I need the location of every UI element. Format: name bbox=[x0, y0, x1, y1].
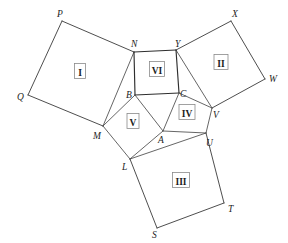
vertex-label-W: W bbox=[269, 74, 278, 84]
edge-M-L bbox=[103, 126, 130, 159]
region-label-v: V bbox=[127, 114, 139, 129]
region-label-iv: IV bbox=[179, 105, 195, 120]
edge-A-C bbox=[163, 93, 179, 131]
edge-U-A bbox=[163, 131, 206, 133]
edge-N-Y bbox=[134, 50, 176, 52]
edge-L-S bbox=[130, 159, 157, 228]
edge-P-N bbox=[62, 21, 134, 52]
region-label-text: I bbox=[78, 68, 82, 78]
edge-X-W bbox=[231, 21, 265, 79]
edge-P-Q bbox=[28, 21, 62, 95]
region-label-ii: II bbox=[214, 55, 228, 70]
geometry-figure: IIIIIIIVVVI PQMNXWVYSTULABC bbox=[0, 0, 288, 243]
region-label-layer: IIIIIIIVVVI bbox=[75, 55, 229, 188]
region-label-i: I bbox=[75, 64, 86, 79]
vertex-label-S: S bbox=[152, 230, 157, 240]
edge-W-V bbox=[212, 79, 265, 108]
vertex-label-T: T bbox=[228, 204, 234, 214]
vertex-label-N: N bbox=[130, 39, 138, 49]
vertex-label-X: X bbox=[231, 9, 239, 19]
diagram-canvas: IIIIIIIVVVI PQMNXWVYSTULABC bbox=[0, 0, 288, 243]
vertex-label-A: A bbox=[157, 135, 164, 145]
edge-Y-C bbox=[176, 50, 179, 93]
edge-V-U bbox=[206, 108, 212, 133]
edge-Y-V bbox=[176, 50, 212, 108]
vertex-label-V: V bbox=[213, 110, 220, 120]
edge-Q-M bbox=[28, 95, 103, 126]
vertex-label-Q: Q bbox=[17, 92, 24, 102]
region-label-text: IV bbox=[182, 109, 193, 119]
region-label-text: V bbox=[130, 118, 137, 128]
vertex-label-L: L bbox=[121, 162, 127, 172]
edge-L-U bbox=[130, 133, 206, 159]
vertex-label-B: B bbox=[126, 90, 132, 100]
edge-C-B bbox=[135, 93, 179, 95]
vertex-label-layer: PQMNXWVYSTULABC bbox=[17, 9, 278, 240]
edge-layer bbox=[28, 21, 265, 228]
region-label-iii: III bbox=[173, 173, 190, 188]
edge-B-N bbox=[134, 52, 135, 95]
edge-S-T bbox=[157, 203, 224, 228]
vertex-label-P: P bbox=[56, 9, 63, 19]
vertex-label-U: U bbox=[206, 138, 214, 148]
region-label-vi: VI bbox=[150, 62, 165, 77]
vertex-label-C: C bbox=[180, 89, 187, 99]
edge-Y-X bbox=[176, 21, 231, 50]
vertex-label-M: M bbox=[92, 131, 102, 141]
region-label-text: VI bbox=[152, 66, 163, 76]
region-label-text: III bbox=[175, 177, 186, 187]
region-label-text: II bbox=[217, 59, 225, 69]
